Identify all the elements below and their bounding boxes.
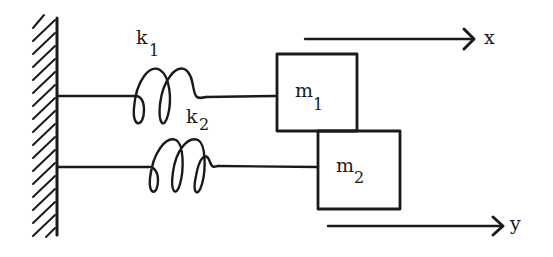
label-k1-main: k <box>136 26 148 48</box>
displacement-arrow-x <box>305 29 474 49</box>
wall-hatching <box>33 15 55 237</box>
spring-k1 <box>57 69 277 124</box>
mass-spring-diagram: k 1 k 2 m 1 m 2 x y <box>0 0 553 257</box>
label-k2-main: k <box>186 105 198 127</box>
label-m2-subscript: 2 <box>354 168 364 187</box>
label-k2-subscript: 2 <box>199 115 209 134</box>
spring-k2 <box>57 139 318 192</box>
fixed-wall <box>33 15 57 237</box>
label-m2-main: m <box>336 154 354 176</box>
displacement-arrow-y <box>328 217 503 235</box>
label-m1: m 1 <box>295 79 323 114</box>
mass-m1 <box>277 54 357 131</box>
label-y: y <box>509 212 521 234</box>
label-k2: k 2 <box>186 105 209 134</box>
label-m1-subscript: 1 <box>313 95 323 114</box>
label-k1-subscript: 1 <box>149 41 159 60</box>
label-m2: m 2 <box>336 154 364 187</box>
label-m1-main: m <box>295 79 313 101</box>
label-x: x <box>484 26 495 48</box>
label-k1: k 1 <box>136 26 159 60</box>
